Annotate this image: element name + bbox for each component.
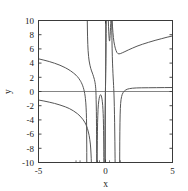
y-tick-label: 8 [30,30,35,40]
y-tick-label: 0 [30,87,35,97]
y-tick-label: -8 [27,144,35,154]
x-tick-label: 0 [103,166,108,176]
y-tick-label: -4 [27,115,35,125]
y-tick-label: -10 [22,158,34,168]
y-tick-label: -2 [27,101,35,111]
chart-figure: -10-8-6-4-20246810-505xy [0,0,188,191]
y-tick-label: 4 [30,58,35,68]
x-tick-label: -5 [35,166,43,176]
y-tick-label: 10 [25,16,35,26]
y-tick-label: 6 [30,44,35,54]
x-tick-label: 5 [170,166,175,176]
y-tick-label: -6 [27,129,35,139]
y-axis-title: y [3,89,13,94]
y-tick-label: 2 [30,73,35,83]
x-axis-title: x [103,179,108,189]
plot-canvas: -10-8-6-4-20246810-505xy [0,0,188,191]
